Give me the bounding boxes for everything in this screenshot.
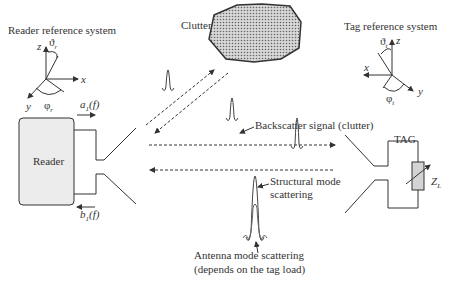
reader-antenna <box>74 128 136 204</box>
structural-mode-label-1: Structural mode <box>270 176 341 187</box>
tag-reference-title: Tag reference system <box>344 21 437 32</box>
antenna-mode-label-2: (depends on the tag load) <box>194 264 305 275</box>
reader-theta-label: ϑr <box>49 37 57 51</box>
reader-reference-title: Reader reference system <box>8 25 116 36</box>
backscatter-diagram: Reader reference system z ϑr x y φr Tag … <box>0 0 462 284</box>
reader-axes-icon <box>28 47 78 98</box>
tag-label: TAG <box>394 134 416 145</box>
tag-antenna <box>345 135 418 213</box>
tag-theta-label: ϑt <box>380 36 387 50</box>
diagram-graphics <box>0 0 462 284</box>
reader-label: Reader <box>33 156 64 167</box>
a1-label: a1(f) <box>80 99 99 113</box>
structural-mode-label-2: scattering <box>270 189 313 200</box>
pulse-tx-icon <box>162 70 174 91</box>
reader-axis-x-label: x <box>81 74 86 85</box>
pulse-clutter-icon <box>226 98 238 121</box>
tag-axis-x-label: x <box>364 62 369 73</box>
tag-axes-icon <box>364 40 413 91</box>
clutter-label: Clutter <box>181 20 212 31</box>
pulse-antenna-icon <box>243 204 267 240</box>
reader-phi-label: φr <box>44 100 53 114</box>
clutter-object <box>209 4 301 62</box>
tag-load-impedance <box>412 162 424 190</box>
b1-label: b1(f) <box>80 209 99 223</box>
reader-axis-z-label: z <box>37 41 41 52</box>
backscatter-label: Backscatter signal (clutter) <box>255 120 374 131</box>
tag-axis-y-label: y <box>418 86 423 97</box>
antenna-mode-label-1: Antenna mode scattering <box>194 250 304 261</box>
reader-axis-y-label: y <box>26 101 31 112</box>
tag-axis-z-label: z <box>396 35 400 46</box>
tag-phi-label: φt <box>386 93 394 107</box>
load-impedance-label: ZL <box>431 176 441 190</box>
tx-to-clutter-path <box>146 70 214 125</box>
